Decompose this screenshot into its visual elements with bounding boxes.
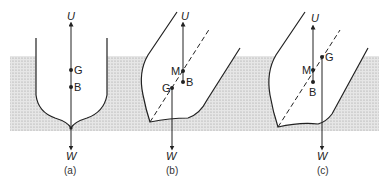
label-b: B xyxy=(186,76,193,88)
label-m: M xyxy=(302,64,311,76)
stability-diagram: U G B W (a) U M B G W (b) U M B G W xyxy=(0,0,389,184)
label-w: W xyxy=(166,150,178,162)
label-w: W xyxy=(66,150,78,162)
label-g: G xyxy=(162,82,171,94)
point-g xyxy=(69,68,73,72)
keel-point xyxy=(69,126,72,129)
caption-c: (c) xyxy=(317,165,329,176)
label-b: B xyxy=(74,81,81,93)
point-b xyxy=(69,85,73,89)
caption-b: (b) xyxy=(166,165,178,176)
point-m xyxy=(181,69,185,73)
point-g xyxy=(320,55,324,59)
label-w: W xyxy=(317,150,329,162)
panel-a: U G B W (a) xyxy=(36,10,107,176)
point-m xyxy=(311,68,315,72)
label-u: U xyxy=(181,10,189,22)
label-g: G xyxy=(74,64,83,76)
label-m: M xyxy=(171,65,180,77)
label-u: U xyxy=(67,10,75,22)
point-b xyxy=(311,80,315,84)
point-g xyxy=(170,86,174,90)
label-b: B xyxy=(309,86,316,98)
label-u: U xyxy=(311,12,319,24)
point-b xyxy=(181,80,185,84)
label-g: G xyxy=(325,51,334,63)
caption-a: (a) xyxy=(64,165,76,176)
